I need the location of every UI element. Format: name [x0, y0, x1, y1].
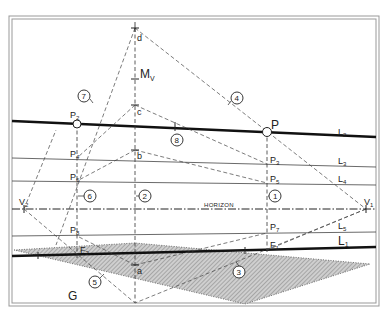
step-2: 2 — [143, 192, 148, 201]
step-8: 8 — [175, 136, 180, 145]
label-c: c — [137, 107, 142, 117]
label-p3: P3 — [270, 155, 280, 166]
label-a: a — [137, 266, 142, 276]
thin-lines — [12, 158, 376, 236]
label-l3: L3 — [338, 156, 347, 167]
label-v2: V2 — [19, 197, 29, 208]
step-7: 7 — [82, 92, 87, 101]
step-3: 3 — [237, 268, 242, 277]
step-4: 4 — [235, 94, 240, 103]
label-p2: P2 — [70, 110, 80, 121]
label-p1: P — [271, 118, 279, 132]
label-l4: L4 — [338, 174, 347, 185]
label-l2: L2 — [338, 127, 347, 138]
point-p2-circle — [73, 120, 81, 128]
label-p6: P6 — [70, 172, 80, 183]
step-1: 1 — [273, 192, 278, 201]
step-6: 6 — [88, 192, 93, 201]
label-l1: L1 — [338, 234, 349, 248]
label-v1: V1 — [364, 197, 374, 208]
label-p4: P4 — [70, 149, 80, 160]
label-d: d — [137, 33, 142, 43]
label-l5: L5 — [338, 221, 347, 232]
step-5: 5 — [93, 278, 98, 287]
perspective-diagram: 7 8 4 6 2 1 3 5 d c b a MV P P2 P3 P4 P5… — [0, 0, 389, 317]
label-f1: F1 — [270, 240, 280, 251]
ground-label: G — [68, 289, 77, 303]
horizon-label: HORIZON — [204, 202, 234, 208]
label-p7: P7 — [270, 222, 280, 233]
label-mv: MV — [140, 67, 155, 82]
label-p5: P5 — [270, 174, 280, 185]
label-p8: P8 — [70, 225, 80, 236]
label-b: b — [137, 151, 142, 161]
